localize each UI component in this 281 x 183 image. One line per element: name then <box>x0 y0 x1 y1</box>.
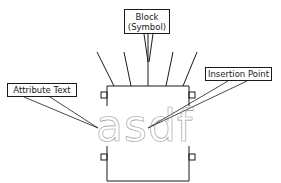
block-callout-pointer-left <box>144 34 148 62</box>
pin-stub-left-bottom <box>101 154 107 160</box>
attribute-callout-pointer <box>24 97 98 128</box>
ray-5 <box>183 52 197 86</box>
block-callout-line2: (Symbol) <box>125 22 169 32</box>
attribute-pointer-line-2 <box>50 97 98 128</box>
block-callout-pointer-right <box>149 34 153 62</box>
pin-stub-left-top <box>101 92 107 98</box>
block-callout-line1: Block <box>125 12 169 22</box>
ray-2 <box>124 52 131 86</box>
block-leader-lines <box>97 34 197 86</box>
ray-4 <box>166 52 173 86</box>
attribute-value-text: asdf <box>96 104 193 148</box>
block-symbol-callout: Block (Symbol) <box>124 9 170 34</box>
attribute-pointer-line-1 <box>24 97 98 128</box>
pin-stub-right-bottom <box>189 154 195 160</box>
pin-stub-right-top <box>189 92 195 98</box>
ray-1 <box>97 52 114 86</box>
insertion-point-callout: Insertion Point <box>205 67 272 81</box>
attribute-text-callout: Attribute Text <box>7 83 77 97</box>
